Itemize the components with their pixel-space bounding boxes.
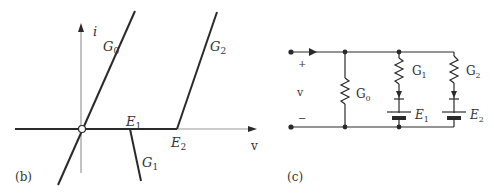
node-g0-bottom — [343, 125, 348, 130]
g2-line — [177, 12, 217, 129]
v-axis-label: v — [250, 139, 258, 153]
g1-resistor-icon — [395, 58, 403, 84]
d2-diode-icon — [451, 91, 457, 98]
current-arrow-icon — [309, 48, 317, 56]
e1-battery-short-plate — [392, 116, 406, 120]
e1-label: E1 — [125, 114, 141, 131]
diagram-canvas: i v G0 G2 E1 E2 G1 (b) — [0, 0, 494, 195]
g0-resistor-icon — [341, 78, 349, 104]
e2-label: E2 — [170, 135, 186, 152]
origin-marker — [79, 126, 86, 133]
node-e1-bottom — [397, 125, 402, 130]
g1-line — [130, 129, 141, 181]
g1-circuit-label: G1 — [412, 64, 427, 80]
i-axis-arrow-icon — [78, 23, 84, 32]
e1-circuit-label: E1 — [414, 108, 429, 124]
panel-b-graph: i v G0 G2 E1 E2 G1 (b) — [15, 11, 258, 185]
plus-sign: + — [298, 58, 306, 69]
node-g0-top — [343, 50, 348, 55]
e2-battery-short-plate — [447, 116, 461, 120]
g0-label: G0 — [103, 39, 119, 56]
g2-resistor-icon — [450, 56, 458, 83]
panel-c-caption: (c) — [287, 170, 303, 184]
v-axis-arrow-icon — [248, 126, 257, 132]
voltage-label: v — [296, 86, 304, 99]
e2-circuit-label: E2 — [469, 108, 484, 124]
minus-sign: − — [298, 113, 306, 124]
d1-diode-icon — [396, 91, 402, 98]
panel-c-circuit — [288, 48, 466, 130]
g0-circuit-label: G0 — [356, 87, 371, 103]
panel-b-caption: (b) — [15, 170, 32, 184]
g2-circuit-label: G2 — [466, 64, 481, 80]
node-g1-top — [397, 50, 402, 55]
g1-label: G1 — [142, 155, 158, 172]
terminal-top — [288, 49, 293, 54]
terminal-bottom — [288, 124, 293, 129]
i-axis-label: i — [93, 24, 97, 39]
g2-label: G2 — [210, 39, 226, 56]
